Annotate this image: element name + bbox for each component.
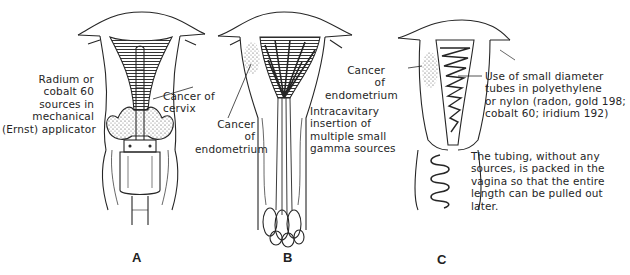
tubing-label: The tubing, without any sources, is pack… — [471, 150, 605, 212]
tubes-label: Use of small diameter tubes in polyethyl… — [485, 70, 626, 120]
figure: Radium or cobalt 60 sources in mechanica… — [0, 0, 630, 275]
endometrium-cancer-label-c: Cancer of endometrium — [325, 64, 385, 101]
panel-label-c: C — [437, 252, 446, 267]
panel-label-a: A — [132, 250, 141, 265]
panel-label-b: B — [283, 250, 292, 265]
endometrium-cancer-label-b: Cancer of endometrium — [195, 118, 255, 155]
panel-a-drawing — [78, 12, 205, 225]
applicator-label: Radium or cobalt 60 sources in mechanica… — [2, 73, 94, 135]
intracavitary-label: Intracavitary insertion of multiple smal… — [310, 105, 396, 155]
cervix-cancer-label: Cancer of cervix — [163, 90, 215, 115]
